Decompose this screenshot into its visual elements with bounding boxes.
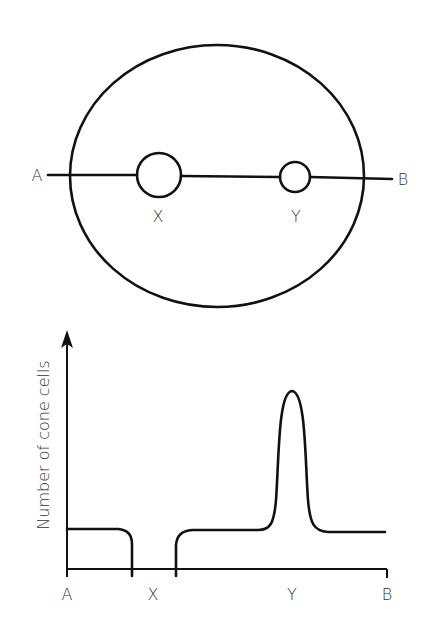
label-y-eye: Y (291, 207, 301, 226)
structure-x-circle (137, 153, 181, 197)
label-a-eye: A (32, 166, 43, 185)
x-tick-a: A (62, 585, 73, 604)
label-b-eye: B (398, 170, 408, 189)
structure-y-circle (280, 162, 310, 192)
y-axis-label: Number of cone cells (34, 360, 53, 529)
line-x-to-y (181, 176, 280, 177)
figure: A B X Y Number of cone cells A X Y B (0, 0, 438, 627)
label-x-eye: X (153, 207, 164, 226)
line-y-to-b (310, 177, 392, 179)
cone-density-graph: Number of cone cells A X Y B (34, 330, 392, 604)
x-tick-b: B (382, 585, 392, 604)
x-tick-y: Y (287, 585, 297, 604)
curve-segment-x-b (176, 391, 385, 576)
x-tick-x: X (148, 585, 159, 604)
eye-diagram: A B X Y (32, 45, 409, 307)
